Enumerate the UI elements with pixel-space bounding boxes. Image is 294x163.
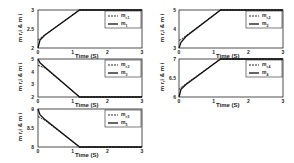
xtick: 0 (37, 148, 40, 154)
y-axis-label: m r,i & m i (17, 57, 23, 97)
subplot-4: 7 6.5 6 0 1 2 3 mr,4 m4 m r,i & m i Time… (147, 49, 294, 109)
x-axis-label: Time (S) (216, 102, 240, 108)
ytick: 3 (31, 7, 34, 13)
legend: mr,1 m1 (105, 11, 141, 28)
x-axis-label: Time (S) (75, 152, 99, 158)
ytick: 8.5 (27, 125, 34, 131)
legend: mr,5 m5 (105, 110, 141, 127)
y-axis-label: m r,i & m i (17, 107, 23, 147)
xtick: 1 (212, 98, 215, 104)
ytick: 7 (173, 56, 176, 62)
y-axis-label: m r,i & m i (159, 8, 165, 48)
subplot-5: 9 8.5 8 0 1 2 3 mr,5 m5 m r,i & m i Time… (0, 99, 147, 163)
subplot-4-axes: 7 6.5 6 0 1 2 3 mr,4 m4 (147, 49, 294, 109)
legend: mr,4 m4 (246, 60, 282, 77)
xtick: 0 (178, 98, 181, 104)
ytick: 8 (31, 144, 34, 150)
ytick: 6 (173, 94, 176, 100)
ytick: 6.5 (169, 75, 176, 81)
ytick: 2.5 (27, 26, 34, 32)
xtick: 1 (71, 148, 74, 154)
xtick: 2 (106, 148, 109, 154)
ytick: 4 (31, 69, 34, 75)
legend: mr,2 m2 (246, 11, 282, 28)
ytick: 9 (31, 106, 34, 112)
ytick: 5 (173, 7, 176, 13)
legend: mr,3 m3 (105, 60, 141, 77)
ytick: 3 (31, 81, 34, 87)
xtick: 2 (247, 98, 250, 104)
y-axis-label: m r,i & m i (17, 8, 23, 48)
xtick: 3 (141, 148, 144, 154)
y-axis-label: m r,i & m i (159, 57, 165, 97)
ytick: 5 (31, 56, 34, 62)
xtick: 3 (282, 98, 285, 104)
ytick: 4 (173, 26, 176, 32)
